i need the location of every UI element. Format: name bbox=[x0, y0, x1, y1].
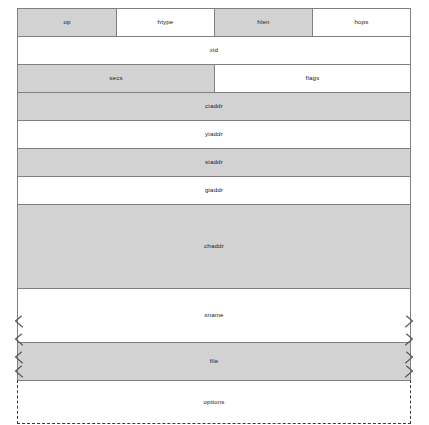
field-sname: sname bbox=[18, 289, 410, 342]
row-ciaddr: ciaddr bbox=[17, 92, 411, 120]
field-file: file bbox=[18, 343, 410, 380]
row-siaddr: siaddr bbox=[17, 148, 411, 176]
row-xid: xid bbox=[17, 36, 411, 64]
row-secs-flags: secs flags bbox=[17, 64, 411, 92]
row-options: options bbox=[17, 380, 411, 424]
field-hops: hops bbox=[312, 9, 410, 36]
field-xid: xid bbox=[18, 37, 410, 64]
row-giaddr: giaddr bbox=[17, 176, 411, 204]
field-hlen: hlen bbox=[214, 9, 312, 36]
field-htype: htype bbox=[116, 9, 214, 36]
row-op-htype-hlen-hops: op htype hlen hops bbox=[17, 8, 411, 36]
field-ciaddr: ciaddr bbox=[18, 93, 410, 120]
field-options: options bbox=[18, 381, 410, 423]
field-giaddr: giaddr bbox=[18, 177, 410, 204]
row-chaddr: chaddr bbox=[17, 204, 411, 288]
row-file: file bbox=[17, 342, 411, 380]
field-op: op bbox=[18, 9, 116, 36]
row-yiaddr: yiaddr bbox=[17, 120, 411, 148]
field-yiaddr: yiaddr bbox=[18, 121, 410, 148]
field-flags: flags bbox=[214, 65, 410, 92]
dhcp-packet-format-diagram: op htype hlen hops xid secs flags ciaddr… bbox=[17, 8, 411, 424]
row-sname: sname bbox=[17, 288, 411, 342]
field-siaddr: siaddr bbox=[18, 149, 410, 176]
field-secs: secs bbox=[18, 65, 214, 92]
field-chaddr: chaddr bbox=[18, 205, 410, 288]
